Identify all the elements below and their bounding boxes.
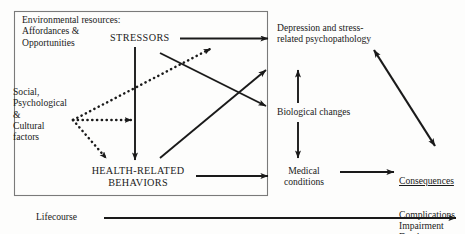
edge-social-to-health-behaviors	[73, 120, 106, 158]
edge-health-behaviors-diagonal-to-depression	[160, 70, 266, 158]
node-stressors: STRESSORS	[110, 32, 170, 44]
edge-social-to-stressors-upper	[73, 49, 210, 120]
node-consequences: Consequences Complications Impairment De…	[399, 152, 455, 234]
node-lifecourse: Lifecourse	[36, 211, 77, 222]
consequences-items: Complications Impairment Death	[399, 209, 455, 234]
node-environmental-resources: Environmental resources: Affordances & O…	[22, 14, 120, 48]
node-social-factors: Social, Psychological & Cultural factors	[13, 86, 67, 143]
node-biological-changes: Biological changes	[277, 106, 350, 117]
diagram-canvas: Environmental resources: Affordances & O…	[0, 0, 465, 234]
consequences-heading: Consequences	[399, 175, 455, 186]
edge-depression-consequences-bidirectional	[374, 50, 435, 146]
node-depression: Depression and stress- related psychopat…	[277, 22, 371, 45]
node-health-related-behaviors: HEALTH-RELATED BEHAVIORS	[86, 165, 190, 189]
edge-stressors-diagonal-to-biological	[160, 53, 266, 106]
node-medical-conditions: Medical conditions	[276, 165, 332, 188]
